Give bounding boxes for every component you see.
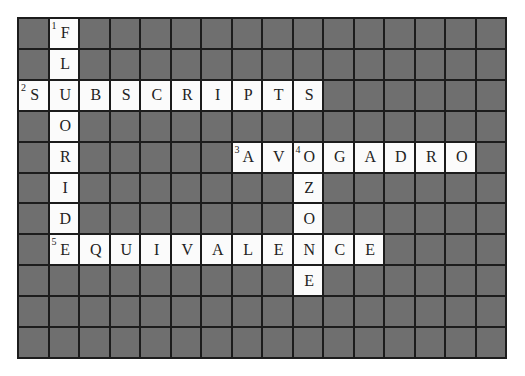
blocked-cell: [324, 174, 353, 203]
letter-cell[interactable]: 1F: [50, 19, 79, 48]
blocked-cell: [19, 174, 48, 203]
blocked-cell: [477, 112, 506, 141]
blocked-cell: [19, 328, 48, 357]
blocked-cell: [416, 174, 445, 203]
blocked-cell: [233, 297, 262, 326]
letter-cell[interactable]: A: [355, 143, 384, 172]
blocked-cell: [80, 143, 109, 172]
blocked-cell: [446, 266, 475, 295]
blocked-cell: [50, 297, 79, 326]
letter-cell[interactable]: U: [111, 235, 140, 264]
blocked-cell: [141, 174, 170, 203]
cell-letter: S: [302, 86, 314, 104]
letter-cell[interactable]: C: [141, 81, 170, 110]
blocked-cell: [385, 112, 414, 141]
letter-cell[interactable]: O: [50, 112, 79, 141]
cell-letter: C: [148, 86, 162, 104]
letter-cell[interactable]: N: [294, 235, 323, 264]
blocked-cell: [355, 266, 384, 295]
letter-cell[interactable]: T: [263, 81, 292, 110]
blocked-cell: [385, 204, 414, 233]
blocked-cell: [294, 112, 323, 141]
blocked-cell: [80, 297, 109, 326]
letter-cell[interactable]: O: [294, 204, 323, 233]
letter-cell[interactable]: G: [324, 143, 353, 172]
letter-cell[interactable]: I: [141, 235, 170, 264]
blocked-cell: [477, 328, 506, 357]
letter-cell[interactable]: R: [50, 143, 79, 172]
blocked-cell: [111, 328, 140, 357]
blocked-cell: [385, 235, 414, 264]
letter-cell[interactable]: E: [263, 235, 292, 264]
cell-letter: G: [331, 148, 346, 166]
cell-letter: A: [361, 148, 376, 166]
crossword-grid: 1FL2SUBSCRIPTSOR3AV4OGADROIZDO5EQUIVALEN…: [17, 17, 507, 359]
blocked-cell: [111, 204, 140, 233]
letter-cell[interactable]: P: [233, 81, 262, 110]
blocked-cell: [263, 174, 292, 203]
cell-letter: V: [178, 241, 193, 259]
cell-letter: E: [271, 241, 284, 259]
blocked-cell: [172, 328, 201, 357]
letter-cell[interactable]: L: [50, 50, 79, 79]
letter-cell[interactable]: D: [385, 143, 414, 172]
blocked-cell: [111, 112, 140, 141]
blocked-cell: [111, 50, 140, 79]
blocked-cell: [263, 328, 292, 357]
letter-cell[interactable]: U: [50, 81, 79, 110]
cell-letter: O: [56, 117, 71, 135]
letter-cell[interactable]: A: [202, 235, 231, 264]
letter-cell[interactable]: Q: [80, 235, 109, 264]
blocked-cell: [446, 235, 475, 264]
blocked-cell: [446, 174, 475, 203]
letter-cell[interactable]: S: [294, 81, 323, 110]
blocked-cell: [172, 19, 201, 48]
letter-cell[interactable]: Z: [294, 174, 323, 203]
blocked-cell: [263, 112, 292, 141]
letter-cell[interactable]: 4O: [294, 143, 323, 172]
letter-cell[interactable]: V: [172, 235, 201, 264]
blocked-cell: [324, 81, 353, 110]
blocked-cell: [141, 143, 170, 172]
blocked-cell: [416, 235, 445, 264]
blocked-cell: [446, 81, 475, 110]
blocked-cell: [385, 266, 414, 295]
letter-cell[interactable]: 2S: [19, 81, 48, 110]
blocked-cell: [111, 297, 140, 326]
cell-letter: A: [239, 148, 254, 166]
blocked-cell: [477, 174, 506, 203]
blocked-cell: [477, 235, 506, 264]
blocked-cell: [202, 266, 231, 295]
blocked-cell: [202, 50, 231, 79]
blocked-cell: [416, 112, 445, 141]
cell-letter: V: [270, 148, 285, 166]
blocked-cell: [477, 297, 506, 326]
letter-cell[interactable]: D: [50, 204, 79, 233]
letter-cell[interactable]: S: [111, 81, 140, 110]
letter-cell[interactable]: L: [233, 235, 262, 264]
blocked-cell: [19, 19, 48, 48]
blocked-cell: [416, 328, 445, 357]
letter-cell[interactable]: 5E: [50, 235, 79, 264]
blocked-cell: [355, 328, 384, 357]
blocked-cell: [324, 112, 353, 141]
letter-cell[interactable]: I: [202, 81, 231, 110]
blocked-cell: [233, 112, 262, 141]
letter-cell[interactable]: C: [324, 235, 353, 264]
blocked-cell: [202, 19, 231, 48]
blocked-cell: [416, 50, 445, 79]
cell-letter: L: [240, 241, 253, 259]
letter-cell[interactable]: V: [263, 143, 292, 172]
letter-cell[interactable]: E: [294, 266, 323, 295]
letter-cell[interactable]: E: [355, 235, 384, 264]
letter-cell[interactable]: B: [80, 81, 109, 110]
letter-cell[interactable]: R: [172, 81, 201, 110]
blocked-cell: [477, 266, 506, 295]
cell-letter: Z: [301, 179, 314, 197]
cell-letter: C: [331, 241, 345, 259]
letter-cell[interactable]: O: [446, 143, 475, 172]
cell-letter: R: [423, 148, 437, 166]
letter-cell[interactable]: R: [416, 143, 445, 172]
letter-cell[interactable]: I: [50, 174, 79, 203]
letter-cell[interactable]: 3A: [233, 143, 262, 172]
